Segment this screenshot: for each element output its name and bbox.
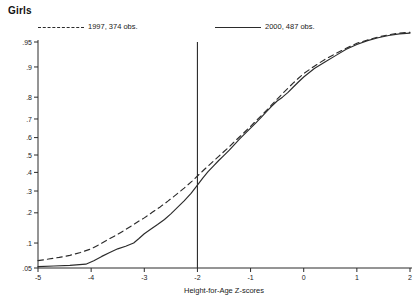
y-tick-label: .4 [26,169,32,176]
y-tick-label: .5 [26,152,32,159]
x-tick-label: -5 [35,274,41,281]
chart-svg: .05.1.2.3.4.5.6.7.8.9.95 -5-4-3-2-1012 H… [0,0,413,297]
y-tick-label: .05 [22,265,32,272]
x-tick-label: -2 [194,274,200,281]
y-tick-label: .6 [26,134,32,141]
x-tick-label: -4 [88,274,94,281]
x-tick-label: 2 [408,274,412,281]
series-line-2000 [38,33,410,267]
y-tick-label: .3 [26,188,32,195]
series-layer [38,32,410,266]
y-tick-label: .7 [26,116,32,123]
y-axis: .05.1.2.3.4.5.6.7.8.9.95 [22,39,38,272]
x-tick-label: -1 [247,274,253,281]
y-tick-label: .2 [26,209,32,216]
y-tick-label: .9 [26,64,32,71]
y-tick-label: .95 [22,39,32,46]
plot-area: .05.1.2.3.4.5.6.7.8.9.95 -5-4-3-2-1012 H… [0,0,413,297]
series-line-1997 [38,32,410,260]
x-axis-title: Height-for-Age Z-scores [184,286,264,295]
y-tick-label: .1 [26,240,32,247]
chart-page: Girls 1997, 374 obs. 2000, 487 obs. .05.… [0,0,413,297]
x-axis: -5-4-3-2-1012 [35,268,412,281]
x-tick-label: 1 [355,274,359,281]
x-tick-label: 0 [302,274,306,281]
x-tick-label: -3 [141,274,147,281]
y-tick-label: .8 [26,94,32,101]
